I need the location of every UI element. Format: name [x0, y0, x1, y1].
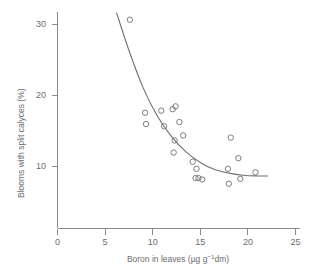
- x-tick-group: 0510152025: [55, 229, 301, 248]
- data-point-marker: [159, 108, 164, 113]
- x-tick-label: 25: [290, 237, 300, 247]
- scatter-plot: 102030 0510152025 Boron in leaves (µg g−…: [0, 0, 327, 277]
- fit-curve: [117, 13, 268, 176]
- y-axis-title: Blooms with split calyces (%): [16, 88, 26, 198]
- y-tick-group: 102030: [36, 19, 58, 171]
- x-axis: 0510152025: [55, 229, 301, 248]
- data-point-marker: [226, 181, 231, 186]
- data-point-marker: [177, 119, 182, 124]
- x-axis-title: Boron in leaves (µg g−1dm): [127, 253, 229, 264]
- y-tick-label: 20: [36, 90, 46, 100]
- data-point-marker: [142, 110, 147, 115]
- data-point-marker: [253, 170, 258, 175]
- data-point-marker: [127, 17, 132, 22]
- x-tick-label: 15: [195, 237, 205, 247]
- data-points-group: [127, 17, 258, 186]
- data-point-marker: [171, 150, 176, 155]
- x-tick-label: 20: [243, 237, 253, 247]
- data-point-marker: [194, 166, 199, 171]
- x-tick-label: 10: [148, 237, 158, 247]
- chart-figure: 102030 0510152025 Boron in leaves (µg g−…: [0, 0, 327, 277]
- data-point-marker: [225, 166, 230, 171]
- data-point-marker: [228, 135, 233, 140]
- fit-curve-group: [117, 13, 268, 176]
- y-tick-label: 10: [36, 161, 46, 171]
- data-point-marker: [236, 155, 241, 160]
- data-point-marker: [180, 133, 185, 138]
- data-point-marker: [143, 121, 148, 126]
- x-tick-label: 0: [55, 237, 60, 247]
- data-point-marker: [190, 159, 195, 164]
- y-tick-label: 30: [36, 19, 46, 29]
- x-tick-label: 5: [103, 237, 108, 247]
- data-point-marker: [238, 176, 243, 181]
- y-axis: 102030: [36, 12, 58, 228]
